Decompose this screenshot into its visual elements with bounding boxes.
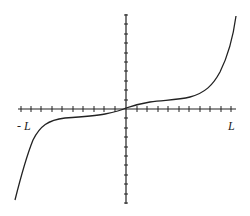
pos-L-label: L [228, 119, 235, 134]
chart-canvas [0, 0, 250, 216]
neg-L-label: - L [17, 119, 31, 134]
